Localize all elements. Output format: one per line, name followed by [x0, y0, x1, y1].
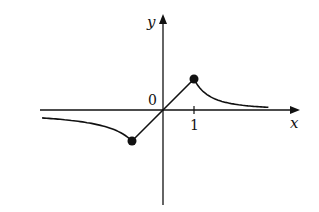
y-axis-arrow-icon: [159, 14, 167, 24]
plot-area: [0, 0, 319, 212]
y-axis-label: y: [147, 13, 155, 31]
origin-label: 0: [148, 92, 157, 108]
local-max-point: [190, 75, 199, 84]
local-min-point: [128, 137, 137, 146]
x-axis-label: x: [290, 114, 298, 132]
chart: y x 0 1: [0, 0, 319, 212]
x-axis-arrow-icon: [290, 106, 300, 114]
x-tick-label-1: 1: [190, 117, 199, 133]
